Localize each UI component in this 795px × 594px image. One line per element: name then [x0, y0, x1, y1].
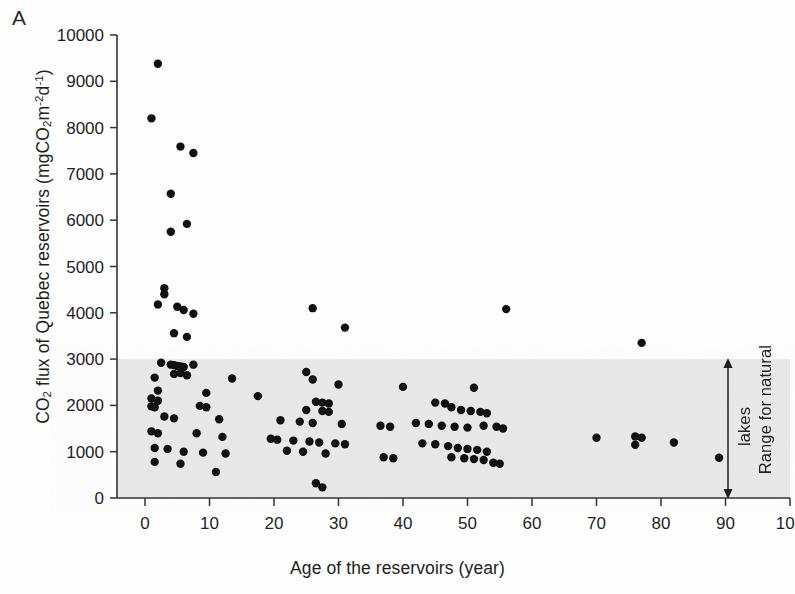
data-point	[502, 305, 510, 313]
data-point	[305, 437, 313, 445]
data-point	[296, 417, 304, 425]
data-point	[637, 339, 645, 347]
data-point	[154, 60, 162, 68]
range-annotation: Range for natural lakes	[735, 345, 795, 495]
data-point	[467, 407, 475, 415]
y-tick-label: 0	[95, 489, 104, 508]
data-point	[150, 444, 158, 452]
data-point	[418, 439, 426, 447]
data-point	[479, 422, 487, 430]
data-point	[399, 383, 407, 391]
y-axis-label: CO2 flux of Quebec reservoirs (mgCO2m-2d…	[33, 12, 54, 482]
data-point	[276, 416, 284, 424]
y-tick-label: 1000	[66, 443, 104, 462]
data-point	[479, 456, 487, 464]
data-point	[202, 403, 210, 411]
y-tick-label: 6000	[66, 211, 104, 230]
data-point	[163, 445, 171, 453]
data-point	[309, 304, 317, 312]
y-tick-label: 4000	[66, 304, 104, 323]
range-annotation-line2: lakes	[736, 407, 754, 446]
data-point	[386, 423, 394, 431]
x-axis-label: Age of the reservoirs (year)	[0, 558, 795, 579]
data-point	[473, 446, 481, 454]
data-point	[215, 415, 223, 423]
data-point	[447, 453, 455, 461]
data-point	[183, 333, 191, 341]
data-point	[254, 392, 262, 400]
x-tick-label: 20	[265, 514, 284, 533]
y-tick-label: 8000	[66, 119, 104, 138]
data-point	[341, 323, 349, 331]
data-point	[318, 483, 326, 491]
data-point	[170, 414, 178, 422]
data-point	[147, 114, 155, 122]
data-point	[150, 373, 158, 381]
data-point	[183, 220, 191, 228]
data-point	[321, 449, 329, 457]
data-point	[715, 454, 723, 462]
data-point	[199, 448, 207, 456]
data-point	[218, 433, 226, 441]
data-point	[444, 442, 452, 450]
data-point	[631, 441, 639, 449]
range-annotation-line1: Range for natural	[757, 345, 775, 474]
data-point	[463, 445, 471, 453]
data-point	[221, 449, 229, 457]
x-tick-label: 10	[200, 514, 219, 533]
data-point	[499, 424, 507, 432]
data-point	[483, 409, 491, 417]
data-point	[160, 412, 168, 420]
data-point	[376, 422, 384, 430]
data-point	[283, 447, 291, 455]
data-point	[379, 453, 387, 461]
data-point	[183, 371, 191, 379]
data-point	[431, 440, 439, 448]
data-point	[389, 454, 397, 462]
y-axis-label-text: CO2 flux of Quebec reservoirs (mgCO2m-2d…	[33, 69, 53, 424]
data-point	[438, 422, 446, 430]
data-point	[189, 310, 197, 318]
data-point	[592, 434, 600, 442]
data-point	[176, 460, 184, 468]
data-point	[457, 406, 465, 414]
data-point	[154, 429, 162, 437]
data-point	[176, 142, 184, 150]
data-point	[154, 386, 162, 394]
data-point	[202, 389, 210, 397]
y-tick-label: 10000	[57, 26, 104, 45]
data-point	[670, 438, 678, 446]
data-point	[302, 406, 310, 414]
data-point	[463, 423, 471, 431]
data-point	[315, 438, 323, 446]
data-point	[447, 403, 455, 411]
data-point	[496, 460, 504, 468]
data-point	[425, 420, 433, 428]
data-point	[180, 306, 188, 314]
data-point	[167, 190, 175, 198]
x-tick-label: 80	[652, 514, 671, 533]
data-point	[309, 375, 317, 383]
data-point	[637, 434, 645, 442]
data-point	[189, 360, 197, 368]
data-point	[309, 419, 317, 427]
data-point	[228, 374, 236, 382]
data-point	[338, 420, 346, 428]
data-point	[150, 403, 158, 411]
x-tick-label: 70	[587, 514, 606, 533]
data-point	[302, 368, 310, 376]
data-point	[192, 429, 200, 437]
data-point	[150, 458, 158, 466]
data-point	[289, 436, 297, 444]
data-point	[470, 384, 478, 392]
y-tick-label: 7000	[66, 165, 104, 184]
x-tick-label: 60	[523, 514, 542, 533]
data-point	[470, 455, 478, 463]
data-point	[431, 398, 439, 406]
y-tick-label: 9000	[66, 72, 104, 91]
data-point	[299, 448, 307, 456]
y-tick-label: 2000	[66, 396, 104, 415]
x-tick-label: 50	[458, 514, 477, 533]
data-point	[180, 448, 188, 456]
data-point	[325, 408, 333, 416]
